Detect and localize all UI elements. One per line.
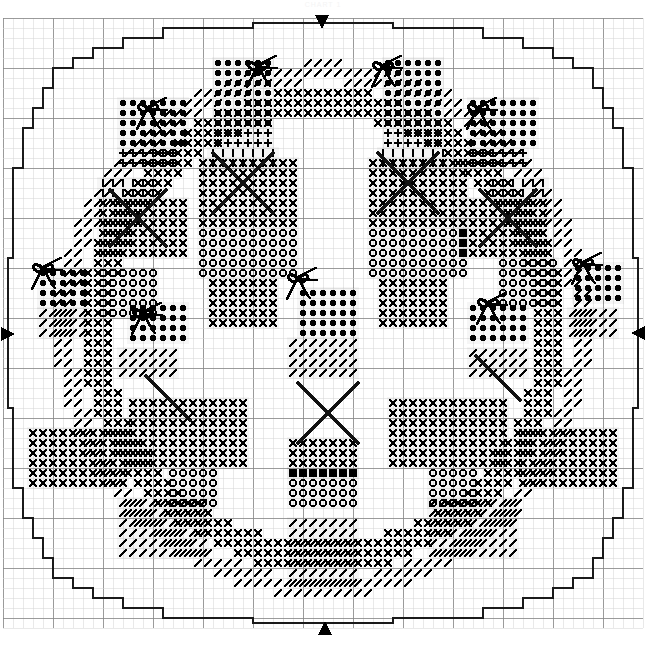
block-dots-center-cell: [310, 300, 316, 306]
lattice-outer-ring-cell: [95, 370, 101, 376]
bow-tail-left: [287, 281, 296, 299]
lattice-outer-ring-cell: [95, 410, 101, 416]
lattice-rim-ring-cell: [125, 490, 132, 497]
lattice-rim-ring-cell: [575, 400, 582, 407]
lattice-rim-ring-cell: [305, 60, 312, 67]
lattice-outer-ring-cell: [215, 540, 221, 546]
lattice-outer-ring-cell: [335, 110, 341, 116]
lattice-outer-ring-cell: [545, 310, 551, 316]
lattice-outer-ring-cell: [485, 480, 491, 486]
lattice-rim-ring-cell: [195, 100, 202, 107]
lattice-outer-ring-cell: [535, 330, 541, 336]
lattice-rim-ring-cell: [425, 570, 432, 577]
lattice-outer-ring-cell: [85, 350, 91, 356]
lattice-outer-ring-cell: [365, 100, 371, 106]
block-top-mid-r-dots-cell: [435, 80, 441, 86]
lattice-outer-ring-cell: [415, 540, 421, 546]
block-dots-mid-right-cell: [500, 335, 506, 341]
lattice-outer-ring-cell: [545, 360, 551, 366]
lattice-outer-ring-cell: [455, 140, 461, 146]
lattice-outer-ring-cell: [105, 370, 111, 376]
lattice-outer-ring-cell: [255, 560, 261, 566]
bow-knot: [145, 106, 150, 111]
block-x-lower-ctr-l-tint: [127, 397, 249, 469]
block-top-left-dots-cell: [130, 130, 136, 136]
block-top-right-dots-cell: [500, 120, 506, 126]
block-top-mid-r-dots-cell: [425, 60, 431, 66]
block-dots-mid-right-cell: [510, 325, 516, 331]
lattice-outer-ring-cell: [535, 360, 541, 366]
block-top-mid-r-dots-cell: [435, 60, 441, 66]
lattice-outer-ring-cell: [145, 170, 151, 176]
lattice-outer-ring-cell: [535, 350, 541, 356]
lattice-outer-ring-cell: [315, 90, 321, 96]
lattice-rim-ring-cell: [325, 70, 332, 77]
cross-stitch-chart: [0, 0, 646, 648]
lattice-outer-ring-cell: [115, 390, 121, 396]
block-dots-mid-right-cell: [520, 315, 526, 321]
lattice-outer-ring-cell: [555, 370, 561, 376]
lattice-outer-ring-cell: [235, 540, 241, 546]
block-top-right-dots-cell: [530, 130, 536, 136]
lattice-outer-ring-cell: [155, 490, 161, 496]
lattice-outer-ring-cell: [455, 130, 461, 136]
block-x-ctr-left: [197, 157, 299, 229]
block-x-lower-left-tint: [27, 427, 129, 489]
lattice-rim-ring-cell: [75, 400, 82, 407]
lattice-rim-ring-cell: [285, 80, 292, 87]
lattice-outer-ring-cell: [375, 560, 381, 566]
lattice-rim-ring-cell: [275, 590, 282, 597]
lattice-rim-ring-cell: [265, 580, 272, 587]
block-dots-mid-right-cell: [520, 305, 526, 311]
lattice-outer-ring-cell: [95, 400, 101, 406]
lattice-rim-ring-cell: [335, 60, 342, 67]
block-dots-mid-left-cell: [160, 305, 166, 311]
block-top-right-dots-cell: [510, 130, 516, 136]
lattice-rim-ring-cell: [585, 350, 592, 357]
lattice-rim-ring-cell: [405, 570, 412, 577]
block-dots-mid-right-cell: [520, 335, 526, 341]
lattice-rim-ring-cell: [325, 60, 332, 67]
block-circles-ctr-r: [367, 227, 469, 279]
block-top-left-dots-cell: [130, 100, 136, 106]
lattice-rim-ring-cell: [365, 80, 372, 87]
lattice-rim-ring-cell: [555, 220, 562, 227]
lattice-outer-ring-cell: [105, 350, 111, 356]
lattice-rim-ring-cell: [255, 570, 262, 577]
lattice-outer-ring-cell: [545, 390, 551, 396]
lattice-outer-ring-cell: [285, 90, 291, 96]
lattice-outer-ring-cell: [295, 110, 301, 116]
lattice-outer-ring-cell: [555, 380, 561, 386]
block-dots-mid-left-cell: [180, 305, 186, 311]
lattice-outer-ring-cell: [165, 180, 171, 186]
lattice-rim-ring-cell: [75, 420, 82, 427]
block-circles-ctr-l: [197, 227, 299, 279]
lattice-rim-ring-cell: [345, 70, 352, 77]
lattice-rim-ring-cell: [125, 170, 132, 177]
block-x-lower-ctr-l: [127, 397, 249, 469]
block-top-mid-r-dots-cell: [405, 60, 411, 66]
lattice-rim-ring-cell: [65, 380, 72, 387]
lattice-outer-ring-cell: [215, 520, 221, 526]
lattice-rim-ring-cell: [315, 590, 322, 597]
lattice-rim-ring-cell: [345, 80, 352, 87]
lattice-rim-ring-cell: [575, 380, 582, 387]
lattice-outer-ring-cell: [265, 560, 271, 566]
block-dots-mid-right-cell: [480, 335, 486, 341]
lattice-outer-ring-cell: [405, 550, 411, 556]
lattice-rim-ring-cell: [115, 170, 122, 177]
lattice-outer-ring-cell: [495, 470, 501, 476]
bow-knot: [380, 64, 385, 69]
lattice-rim-ring-cell: [295, 590, 302, 597]
lattice-outer-ring-cell: [385, 550, 391, 556]
lattice-outer-ring-cell: [275, 90, 281, 96]
lattice-outer-ring-cell: [335, 90, 341, 96]
lattice-rim-ring-cell: [285, 590, 292, 597]
block-dots-right-cell: [615, 285, 621, 291]
block-top-mid-r-dots-cell: [405, 100, 411, 106]
lattice-outer-ring-cell: [545, 370, 551, 376]
lattice-outer-ring-cell: [515, 420, 521, 426]
lattice-rim-ring-cell: [75, 240, 82, 247]
block-dots-right-cell: [605, 275, 611, 281]
lattice-outer-ring-cell: [145, 480, 151, 486]
